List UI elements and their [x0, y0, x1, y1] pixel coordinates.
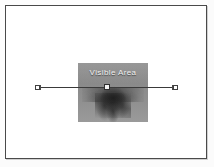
guide-line-cap-left	[40, 85, 41, 90]
document-canvas-frame[interactable]: Visible Area	[5, 5, 207, 159]
resize-handle-left[interactable]	[35, 85, 40, 90]
visible-area-label: Visible Area	[78, 68, 148, 78]
page-edge-right	[208, 0, 214, 167]
screenshot-root: Visible Area	[0, 0, 214, 167]
resize-handle-right[interactable]	[173, 85, 178, 90]
page-edge-bottom	[0, 160, 214, 167]
visible-area-image[interactable]: Visible Area	[78, 63, 148, 122]
move-handle-center[interactable]	[104, 84, 110, 90]
